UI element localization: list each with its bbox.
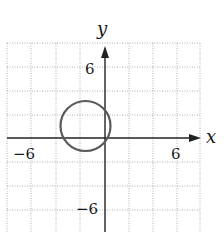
coordinate-plane: x y 6 −6 6 −6: [0, 0, 224, 232]
x-axis-arrow-icon: [189, 134, 201, 142]
x-tick-label-neg: −6: [13, 145, 35, 163]
y-tick-label-neg: −6: [76, 200, 98, 218]
x-axis: [7, 134, 201, 142]
x-axis-label: x: [206, 126, 216, 147]
y-axis-arrow-icon: [101, 46, 109, 58]
y-axis-label: y: [96, 18, 108, 39]
x-tick-label-pos: 6: [171, 145, 181, 163]
y-tick-label-pos: 6: [85, 60, 95, 78]
circle-graph: [61, 101, 111, 151]
